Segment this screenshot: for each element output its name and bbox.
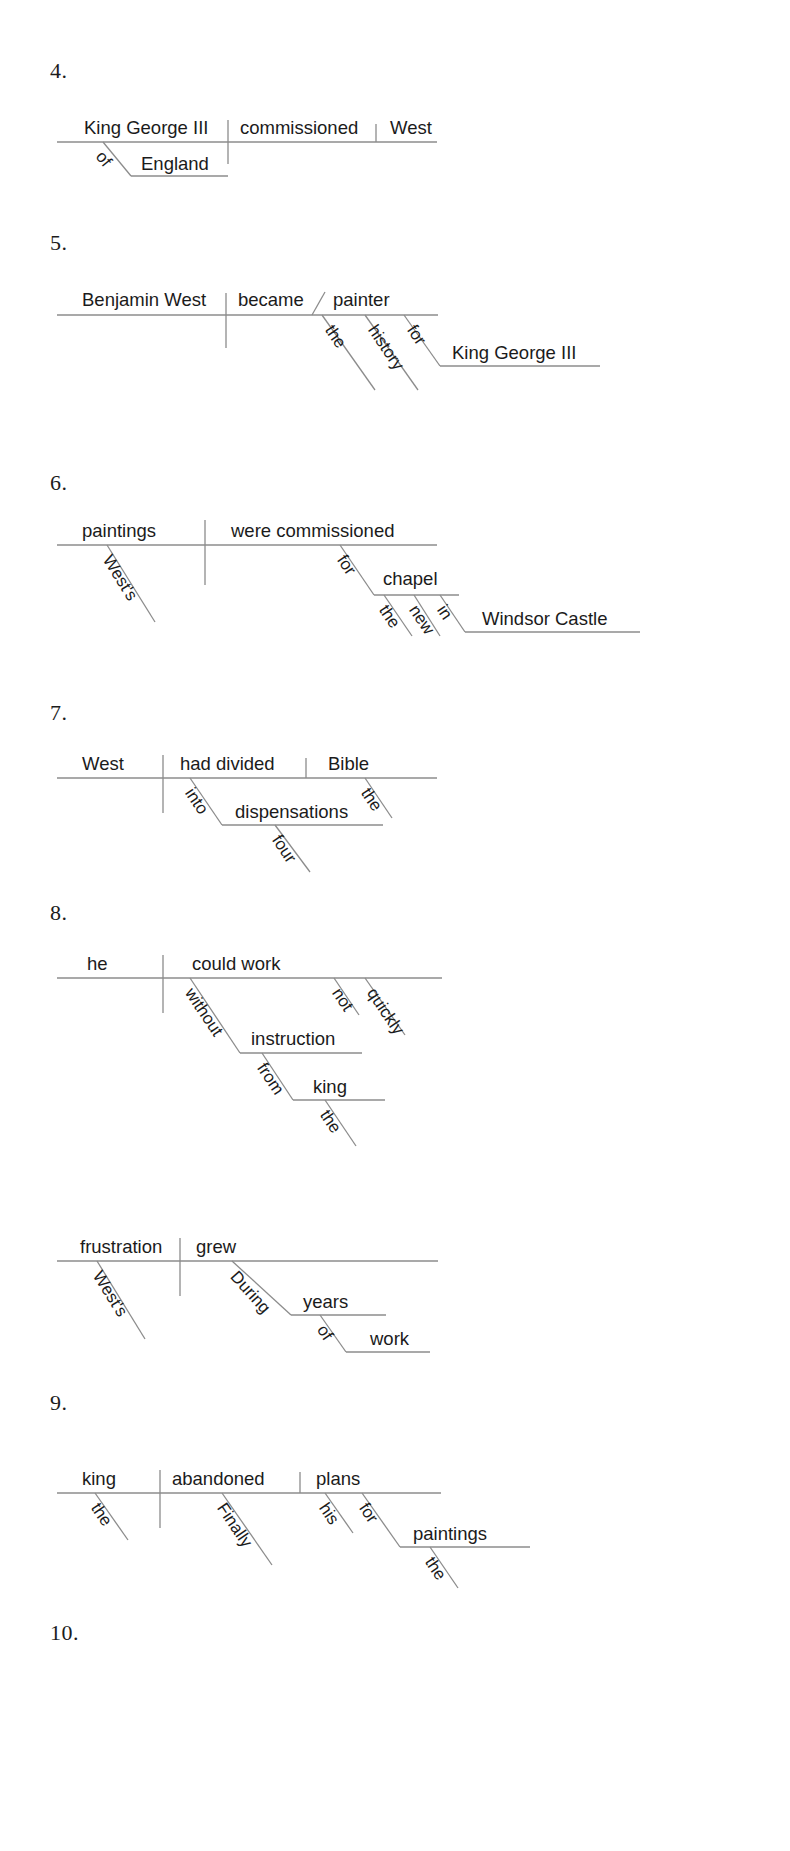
diagram-6-subject: paintings [82, 522, 156, 541]
exercise-number-5: 5. [50, 230, 68, 256]
diagram-4-direct-object: West [390, 119, 432, 138]
diagram-7: West had divided Bible the into dispensa… [0, 745, 790, 895]
diagram-9-object-of-preposition-work: work [370, 1330, 409, 1349]
diagram-9-object-of-preposition-years: years [303, 1293, 348, 1312]
diagram-8: he could work not quickly without instru… [0, 945, 790, 1165]
diagram-5-object-of-preposition: King George III [452, 344, 576, 363]
diagram-4-subject: King George III [84, 119, 208, 138]
diagram-8-lines [0, 945, 790, 1165]
diagram-9-verb: grew [196, 1238, 236, 1257]
diagram-6-verb: were commissioned [231, 522, 394, 541]
exercise-number-8: 8. [50, 900, 68, 926]
diagram-7-object-of-preposition: dispensations [235, 803, 348, 822]
diagram-4: King George III commissioned West of Eng… [0, 100, 790, 200]
worksheet-page: 4. King George III commissioned West of … [0, 0, 790, 1851]
diagram-10-object-of-preposition-paintings: paintings [413, 1525, 487, 1544]
diagram-4-object-of-preposition: England [141, 155, 209, 174]
diagram-7-subject: West [82, 755, 124, 774]
diagram-8-subject: he [87, 955, 108, 974]
exercise-number-7: 7. [50, 700, 68, 726]
exercise-number-4: 4. [50, 58, 68, 84]
diagram-9-subject: frustration [80, 1238, 162, 1257]
diagram-8-object-of-preposition-instruction: instruction [251, 1030, 335, 1049]
diagram-5: Benjamin West became painter the history… [0, 270, 790, 430]
diagram-7-verb: had divided [180, 755, 275, 774]
diagram-6: paintings were commissioned West's for c… [0, 510, 790, 700]
diagram-10-subject: king [82, 1470, 116, 1489]
exercise-number-9: 9. [50, 1390, 68, 1416]
diagram-5-linking-verb: became [238, 291, 304, 310]
diagram-5-subject: Benjamin West [82, 291, 206, 310]
diagram-4-verb: commissioned [240, 119, 358, 138]
diagram-6-object-of-preposition-windsor: Windsor Castle [482, 610, 607, 629]
exercise-number-6: 6. [50, 470, 68, 496]
diagram-8-verb: could work [192, 955, 280, 974]
diagram-10-verb: abandoned [172, 1470, 265, 1489]
diagram-7-direct-object: Bible [328, 755, 369, 774]
diagram-8-object-of-preposition-king: king [313, 1078, 347, 1097]
diagram-10-lines [0, 1460, 790, 1690]
diagram-6-object-of-preposition-chapel: chapel [383, 570, 438, 589]
diagram-10-direct-object: plans [316, 1470, 360, 1489]
diagram-9: frustration grew West's During years of … [0, 1228, 790, 1388]
diagram-10: king abandoned plans the Finally his for… [0, 1460, 790, 1690]
diagram-4-lines [0, 100, 790, 200]
diagram-5-predicate-nominative: painter [333, 291, 390, 310]
